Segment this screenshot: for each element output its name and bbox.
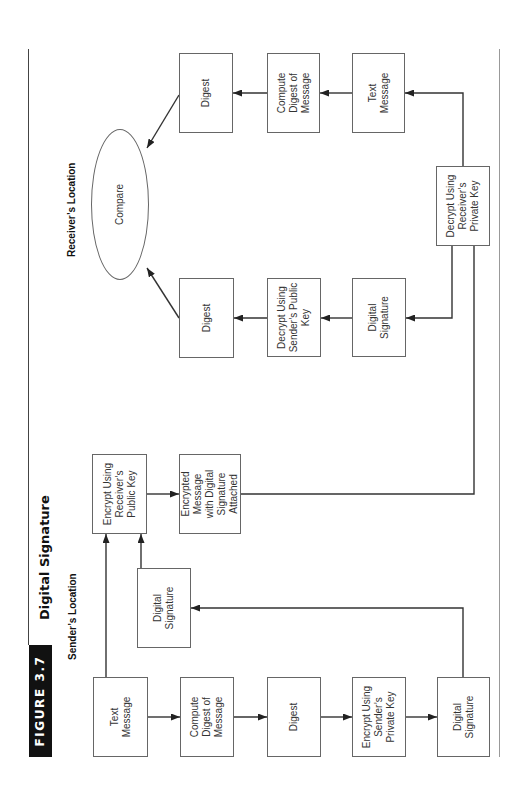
- arrow-decrypt-private-to-text: [405, 93, 463, 166]
- sender-digest-box: Digest: [267, 677, 321, 757]
- receiver-digital-signature-box: Digital Signature: [352, 278, 406, 357]
- arrow-signature-to-signature-copy: [191, 608, 463, 677]
- figure-page: FIGURE 3.7 Digital Signature Sender’s Lo…: [0, 0, 521, 810]
- box-text-line: Message: [300, 73, 312, 114]
- box-text-line: Private Key: [469, 180, 481, 231]
- box-text-line: Compute: [189, 697, 201, 738]
- box-text-line: Public Key: [126, 470, 138, 517]
- box-text-line: Digest: [200, 79, 212, 107]
- box-text-line: Sender’s: [373, 697, 385, 737]
- figure-title: Digital Signature: [37, 495, 52, 620]
- footer-rule: [499, 49, 500, 757]
- box-text-line: Decrypt Using: [276, 286, 288, 349]
- box-text-line: Compute: [276, 73, 288, 114]
- box-text-line: with Digital: [204, 470, 216, 518]
- box-text-line: Digest: [201, 304, 213, 332]
- box-text-line: Digest of: [288, 73, 300, 112]
- receiver-compute-digest-box: Compute Digest of Message: [267, 53, 320, 133]
- box-text-line: Digest of: [201, 697, 213, 736]
- sender-text-message-box: Text Message: [93, 677, 148, 757]
- box-text-line: Receiver’s: [457, 183, 469, 230]
- box-text-line: Message: [121, 697, 133, 738]
- box-text-line: Private Key: [385, 691, 397, 742]
- box-text-line: Receiver’s: [114, 471, 126, 518]
- arrow-decrypt-private-to-signature: [406, 246, 452, 318]
- sender-digital-signature-copy-box: Digital Signature: [137, 568, 191, 648]
- receiver-digest-from-message-box: Digest: [179, 53, 233, 133]
- sender-digital-signature-box: Digital Signature: [437, 677, 490, 757]
- receiver-digest-from-signature-box: Digest: [179, 278, 234, 358]
- box-text-line: Attached: [228, 474, 240, 513]
- sender-encrypt-private-key-box: Encrypt Using Sender’s Private Key: [352, 677, 406, 757]
- box-text-line: Message: [213, 697, 225, 738]
- receiver-text-message-box: Text Message: [352, 53, 405, 133]
- box-text-line: Text: [367, 84, 379, 102]
- sender-encrypted-message-box: Encrypted Message with Digital Signature…: [179, 454, 241, 534]
- figure-label: FIGURE 3.7: [29, 645, 52, 757]
- receiver-compare-ellipse: Compare: [91, 129, 149, 280]
- box-text-line: Encrypt Using: [361, 686, 373, 748]
- box-text-line: Digest: [288, 703, 300, 731]
- box-text-line: Encrypted: [180, 471, 192, 516]
- arrow-digest-signature-to-compare: [147, 268, 179, 318]
- box-text-line: Decrypt Using: [445, 175, 457, 238]
- box-text-line: Signature: [464, 696, 476, 739]
- receiver-decrypt-private-key-box: Decrypt Using Receiver’s Private Key: [436, 166, 490, 246]
- box-text-line: Signature: [164, 587, 176, 630]
- arrow-digest-message-to-compare: [147, 95, 179, 148]
- box-text-line: Message: [192, 474, 204, 515]
- box-text-line: Key: [300, 309, 312, 326]
- sender-location-label: Sender’s Location: [67, 573, 79, 660]
- box-text-line: Signature: [216, 473, 228, 516]
- header-rule: [28, 49, 29, 645]
- receiver-location-label: Receiver’s Location: [66, 163, 78, 257]
- sender-encrypt-public-key-box: Encrypt Using Receiver’s Public Key: [92, 454, 147, 534]
- box-text-line: Message: [379, 73, 391, 114]
- receiver-decrypt-public-key-box: Decrypt Using Sender’s Public Key: [267, 278, 321, 357]
- box-text-line: Signature: [379, 296, 391, 339]
- box-text-line: Compare: [114, 184, 126, 225]
- box-text-line: Digital: [367, 304, 379, 332]
- box-text-line: Encrypt Using: [102, 463, 114, 525]
- box-text-line: Digital: [452, 703, 464, 731]
- box-text-line: Text: [109, 708, 121, 726]
- box-text-line: Digital: [152, 594, 164, 622]
- sender-compute-digest-box: Compute Digest of Message: [180, 677, 234, 757]
- box-text-line: Sender’s Public: [288, 283, 300, 353]
